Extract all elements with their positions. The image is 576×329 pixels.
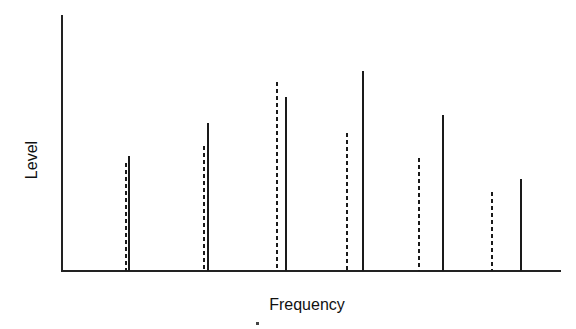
solid-line-1: [128, 156, 130, 271]
y-axis-label: Level: [23, 141, 41, 179]
dashed-line-2: [203, 146, 205, 271]
dashed-line-1: [125, 163, 127, 271]
solid-line-5: [442, 115, 444, 271]
solid-line-4: [362, 71, 364, 271]
dashed-line-5: [418, 158, 420, 271]
solid-line-2: [207, 123, 209, 271]
spectrum-chart: Level Frequency: [0, 0, 576, 329]
x-axis: [61, 270, 561, 272]
dashed-line-6: [491, 192, 493, 271]
dashed-line-4: [346, 133, 348, 271]
solid-line-6: [520, 179, 522, 271]
x-axis-label: Frequency: [269, 296, 345, 314]
dashed-line-3: [276, 82, 278, 271]
y-axis: [61, 15, 63, 272]
solid-line-3: [285, 97, 287, 271]
stray-mark: [256, 322, 259, 325]
